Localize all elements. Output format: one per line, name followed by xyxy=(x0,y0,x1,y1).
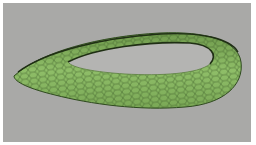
hex-shell-render xyxy=(0,0,256,145)
